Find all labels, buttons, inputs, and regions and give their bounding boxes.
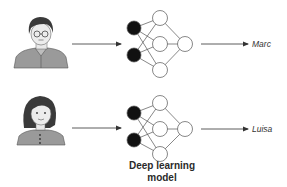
model-caption: Deep learning model bbox=[112, 160, 212, 184]
diagram-canvas: Marc bbox=[0, 0, 287, 187]
neural-network-icon bbox=[127, 11, 193, 78]
output-label-marc: Marc bbox=[252, 39, 272, 49]
woman-avatar-icon bbox=[17, 96, 65, 145]
model-caption-line2: model bbox=[112, 172, 212, 184]
output-label-luisa: Luisa bbox=[252, 124, 273, 134]
man-avatar-icon bbox=[14, 17, 68, 68]
neural-network-icon bbox=[127, 96, 193, 162]
model-caption-line1: Deep learning bbox=[112, 160, 212, 172]
